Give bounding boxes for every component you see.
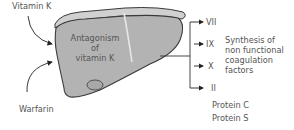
liver-label: Antagonism of vitamin K [70,33,120,63]
warfarin-label: Warfarin [19,104,54,114]
protein-s-label: Protein S [212,113,249,123]
vitamin-k-label: Vitamin K [12,1,51,11]
synthesis-line3: coagulation [225,55,284,65]
liver-label-line2: of [70,43,120,53]
synthesis-line2: non functional [225,45,284,55]
gallbladder-icon [87,80,103,90]
liver-label-line1: Antagonism [70,33,120,43]
synthesis-line1: Synthesis of [225,35,284,45]
warfarin-arrow [27,62,52,92]
factor-vii: VII [206,17,216,27]
synthesis-line4: factors [225,65,284,75]
factor-x: X [208,61,214,71]
vitamin-k-arrow [28,16,52,44]
protein-c-label: Protein C [212,100,249,110]
factor-ii: II [211,83,216,93]
factor-ix: IX [206,39,214,49]
liver-label-line3: vitamin K [70,53,120,63]
synthesis-note: Synthesis of non functional coagulation … [225,35,284,75]
